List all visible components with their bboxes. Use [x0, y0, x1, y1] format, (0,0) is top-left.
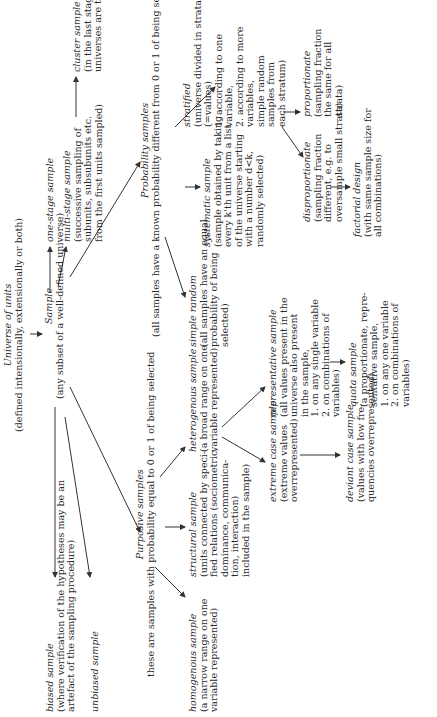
- cluster-title: cluster sample: [72, 0, 83, 72]
- structural-title: structural sample: [188, 448, 199, 577]
- structural-desc-line: fied relations (sociometric,: [209, 448, 220, 577]
- purposive-title: Purposive samples: [135, 352, 146, 677]
- representative-desc-line: 1. on any single variable: [310, 297, 321, 417]
- systematic-desc-line: with a number d<k,: [244, 116, 255, 247]
- universe-desc: (defined intensionally, extensionally or…: [14, 218, 25, 432]
- representative-node: representative sample (all values presen…: [268, 297, 342, 417]
- multi-stage-desc-line: from the first units sampled): [94, 104, 105, 242]
- disproportionate-title: disproportionate: [302, 103, 313, 222]
- disproportionate-node: disproportionate (sampling fraction diff…: [302, 103, 344, 222]
- factorial-desc-line: all combinations): [373, 108, 384, 237]
- sampling-diagram: Universe of units (defined intensionally…: [0, 0, 437, 717]
- multi-stage-title: multi-stage sample: [62, 104, 73, 242]
- systematic-desc-line: randomly selected): [255, 116, 266, 247]
- representative-desc-line: variables): [331, 297, 342, 417]
- universe-title: Universe of units: [3, 218, 14, 432]
- quota-desc-line: 2. on combinations of: [390, 292, 401, 407]
- stratified-title: stratified: [182, 0, 193, 127]
- unbiased-node: unbiased sample: [90, 631, 101, 712]
- stratified-desc-line: (=values): [203, 0, 214, 127]
- biased-title: biased sample: [45, 480, 56, 712]
- disproportionate-desc-line: different, e.g. to: [323, 103, 334, 222]
- purposive-desc: these are samples with probability equal…: [146, 352, 157, 677]
- quota-desc-line: sentative sample,: [369, 292, 380, 407]
- stratified-desc-line: each stratum): [277, 0, 288, 127]
- extreme-title: extreme case sample: [268, 401, 279, 502]
- multi-stage-node: multi-stage sample (successive sampling …: [62, 104, 104, 242]
- stratified-node: stratified (universe divided in strata (…: [182, 0, 287, 127]
- systematic-node: systematic sample (sample obtained by ta…: [202, 116, 265, 247]
- probability-title: Probability samples: [140, 0, 151, 337]
- structural-node: structural sample (units connected by sp…: [188, 448, 251, 577]
- quota-title: quota sample: [348, 292, 359, 407]
- one-stage-title: one-stage sample: [45, 158, 56, 242]
- factorial-node: factorial design (with same sample size …: [352, 108, 384, 237]
- purposive-node: Purposive samples these are samples with…: [135, 352, 156, 677]
- cluster-node: cluster sample (in the last stage the un…: [72, 0, 104, 72]
- factorial-title: factorial design: [352, 108, 363, 237]
- representative-desc-line: universe also present: [289, 297, 300, 417]
- unbiased-title: unbiased sample: [90, 631, 101, 712]
- extreme-desc-line: overrepresented): [289, 401, 300, 502]
- biased-desc-line: artefact of the sampling procedure): [66, 480, 77, 712]
- stratified-desc-line: samples from: [266, 0, 277, 127]
- homogenous-node: homogenous sample (a narrow range on one…: [188, 599, 220, 713]
- disproportionate-desc-line: oversample small strata): [334, 103, 345, 222]
- probability-desc: (all samples have a known probability di…: [151, 0, 162, 337]
- heterogenous-node: heterogenous sample (a broad range on on…: [188, 345, 220, 452]
- structural-desc-line: tion, interaction): [230, 448, 241, 577]
- heterogenous-title: heterogenous sample: [188, 345, 199, 452]
- homogenous-title: homogenous sample: [188, 599, 199, 713]
- stratified-desc-line: variables,: [245, 0, 256, 127]
- multi-stage-desc-line: subunits, subsubunits etc.: [83, 104, 94, 242]
- one-stage-node: one-stage sample: [45, 158, 56, 242]
- stratified-desc-line: variable,: [224, 0, 235, 127]
- cluster-desc-line: universes are taken): [93, 0, 104, 72]
- heterogenous-desc-line: variable represented): [209, 345, 220, 452]
- simple-random-title: simple random: [188, 219, 199, 347]
- quota-desc-line: variables): [401, 292, 412, 407]
- homogenous-desc-line: variable represented): [209, 599, 220, 713]
- quota-node: quota sample (a proportionate, repre- se…: [348, 292, 411, 407]
- systematic-desc-line: every k'th unit from a list: [223, 116, 234, 247]
- structural-desc-line: included in the sample): [241, 448, 252, 577]
- universe-node: Universe of units (defined intensionally…: [3, 218, 24, 432]
- representative-title: representative sample: [268, 297, 279, 417]
- probability-node: Probability samples (all samples have a …: [140, 0, 161, 337]
- extreme-node: extreme case sample (extreme values over…: [268, 401, 300, 502]
- systematic-title: systematic sample: [202, 116, 213, 247]
- biased-node: biased sample (where verification of the…: [45, 480, 77, 712]
